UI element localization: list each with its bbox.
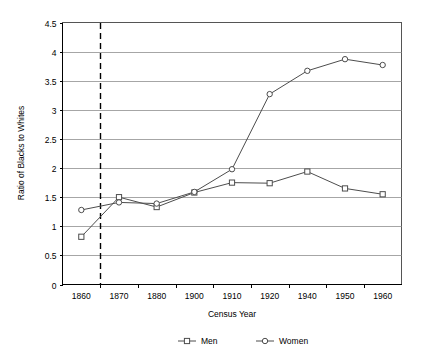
y-tick-label: 3.5 (45, 77, 57, 87)
ratio-of-blacks-to-whites-line-chart: 00.511.522.533.544.5 1860187018801900191… (0, 0, 423, 362)
data-point-women-1860 (79, 207, 84, 212)
data-point-women-1870 (116, 200, 121, 205)
data-point-women-1940 (305, 68, 310, 73)
data-point-women-1960 (380, 62, 385, 67)
y-tick-label: 2 (52, 164, 57, 174)
legend-label: Men (201, 336, 218, 346)
x-tick-label: 1900 (185, 291, 204, 301)
data-point-men-1950 (342, 186, 347, 191)
y-axis-title: Ratio of Blacks to Whites (16, 106, 26, 200)
data-point-men-1860 (79, 234, 84, 239)
data-point-men-1960 (380, 192, 385, 197)
data-point-men-1910 (229, 180, 234, 185)
data-point-women-1950 (342, 56, 347, 61)
data-point-women-1900 (192, 189, 197, 194)
legend-circle-marker-icon (262, 338, 267, 343)
y-tick-label: 0 (52, 281, 57, 291)
data-point-men-1920 (267, 181, 272, 186)
x-tick-label: 1940 (298, 291, 317, 301)
chart-container: 00.511.522.533.544.5 1860187018801900191… (0, 0, 423, 362)
data-point-men-1870 (116, 195, 121, 200)
y-tick-label: 4.5 (45, 19, 57, 29)
legend-square-marker-icon (184, 338, 189, 343)
y-tick-label: 1 (52, 222, 57, 232)
y-tick-label: 3 (52, 106, 57, 116)
x-tick-label: 1910 (223, 291, 242, 301)
data-point-women-1910 (229, 167, 234, 172)
y-tick-label: 1.5 (45, 193, 57, 203)
x-tick-label: 1950 (336, 291, 355, 301)
x-tick-label: 1880 (147, 291, 166, 301)
x-axis-title: Census Year (208, 309, 256, 319)
data-point-women-1920 (267, 91, 272, 96)
data-point-men-1940 (305, 169, 310, 174)
x-tick-label: 1960 (373, 291, 392, 301)
y-tick-label: 0.5 (45, 251, 57, 261)
x-tick-label: 1860 (72, 291, 91, 301)
data-point-women-1880 (154, 201, 159, 206)
plot-area (63, 23, 402, 285)
y-tick-label: 4 (52, 48, 57, 58)
y-tick-label: 2.5 (45, 135, 57, 145)
x-tick-label: 1870 (110, 291, 129, 301)
x-tick-label: 1920 (260, 291, 279, 301)
legend-label: Women (279, 336, 308, 346)
